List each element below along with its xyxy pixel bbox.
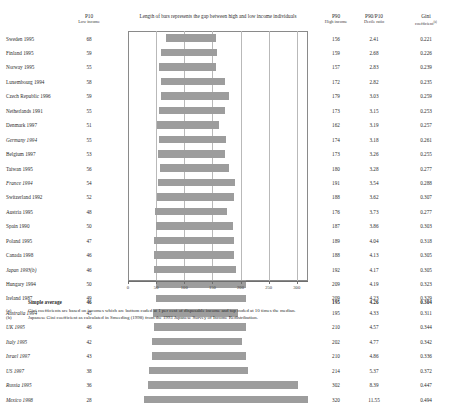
cell-p90: 192 <box>316 267 356 273</box>
cell-gini: 0.336 <box>398 353 454 359</box>
table-row: US 1997382145.370.372 <box>0 365 459 379</box>
table-row: Japan 1993(b)461924.170.305 <box>0 264 459 278</box>
cell-p10: 58 <box>72 79 106 85</box>
cell-p10: 46 <box>72 252 106 258</box>
cell-p10: 43 <box>72 353 106 359</box>
cell-p90: 202 <box>316 339 356 345</box>
cell-p90: 188 <box>316 194 356 200</box>
cell-decile-ratio: 4.57 <box>352 324 396 330</box>
simple-average-label: Simple average <box>28 299 62 305</box>
cell-decile-ratio: 4.86 <box>352 353 396 359</box>
table-row: Spain 1990501873.860.303 <box>0 221 459 235</box>
cell-p90: 320 <box>316 397 356 403</box>
footnote-a-text: Gini coefficients are based on incomes w… <box>28 307 453 314</box>
cell-p10: 59 <box>72 93 106 99</box>
header-gini: Gini coefficient(a) <box>398 13 454 28</box>
cell-decile-ratio: 5.37 <box>352 368 396 374</box>
cell-gini: 0.239 <box>398 64 454 70</box>
country-label: Hungary 1994 <box>6 281 36 287</box>
cell-decile-ratio: 2.82 <box>352 79 396 85</box>
table-row: Poland 1995471894.040.318 <box>0 235 459 249</box>
cell-p90: 173 <box>316 108 356 114</box>
cell-gini: 0.288 <box>398 180 454 186</box>
cell-p10: 55 <box>72 108 106 114</box>
cell-p90: 162 <box>316 122 356 128</box>
cell-p10: 51 <box>72 122 106 128</box>
table-row: Germany 1994551743.180.261 <box>0 134 459 148</box>
table-row: Taiwan 1995561803.280.277 <box>0 163 459 177</box>
header-p10-sublabel: Low income <box>72 19 106 25</box>
cell-p90: 209 <box>316 281 356 287</box>
cell-p10: 52 <box>72 194 106 200</box>
table-row: Finland 1995591592.680.226 <box>0 47 459 61</box>
cell-p90: 210 <box>316 353 356 359</box>
cell-decile-ratio: 3.86 <box>352 223 396 229</box>
cell-gini: 0.253 <box>398 108 454 114</box>
table-row: Luxembourg 1994581722.820.235 <box>0 76 459 90</box>
table-row: Austria 1995481763.730.277 <box>0 206 459 220</box>
table-row: Denmark 1997511623.190.257 <box>0 120 459 134</box>
table-row: Hungary 1994502094.190.323 <box>0 278 459 292</box>
cell-p10: 55 <box>72 64 106 70</box>
country-label: Taiwan 1995 <box>6 166 33 172</box>
cell-p90: 191 <box>316 180 356 186</box>
cell-decile-ratio: 3.28 <box>352 166 396 172</box>
header-p90-sublabel: High income <box>316 19 356 25</box>
country-label: Norway 1995 <box>6 64 34 70</box>
column-headers: P10 Low income Length of bars represents… <box>0 13 459 33</box>
footnote-b-text: Japanese Gini coefficient as calculated … <box>28 314 453 321</box>
country-label: Russia 1995 <box>6 382 32 388</box>
cell-p10: 46 <box>72 324 106 330</box>
cell-p10: 68 <box>72 36 106 42</box>
cell-gini: 0.305 <box>398 252 454 258</box>
cell-p90: 302 <box>316 382 356 388</box>
cell-decile-ratio: 4.19 <box>352 281 396 287</box>
cell-p90: 179 <box>316 93 356 99</box>
cell-p10: 28 <box>72 397 106 403</box>
cell-gini: 0.323 <box>398 281 454 287</box>
table-row: Israel 1997432104.860.336 <box>0 351 459 365</box>
cell-p10: 42 <box>72 339 106 345</box>
simple-average-gini: 0.304 <box>398 299 454 305</box>
cell-decile-ratio: 3.03 <box>352 93 396 99</box>
table-row: France 1994541913.540.288 <box>0 177 459 191</box>
cell-decile-ratio: 3.54 <box>352 180 396 186</box>
table-row: Belgium 1997531733.260.255 <box>0 149 459 163</box>
header-ratio-sublabel: Decile ratio <box>352 19 396 25</box>
country-label: Finland 1995 <box>6 50 34 56</box>
cell-gini: 0.318 <box>398 238 454 244</box>
country-label: Israel 1997 <box>6 353 30 359</box>
header-p10: P10 Low income <box>72 13 106 26</box>
country-label: Canada 1998 <box>6 252 33 258</box>
cell-p10: 36 <box>72 382 106 388</box>
footnote-a-marker: (a) <box>6 307 11 314</box>
table-row: Mexico 19982832011.550.494 <box>0 394 459 407</box>
cell-gini: 0.372 <box>398 368 454 374</box>
country-label: Mexico 1998 <box>6 397 33 403</box>
country-label: Switzerland 1992 <box>6 194 42 200</box>
cell-gini: 0.259 <box>398 93 454 99</box>
cell-gini: 0.255 <box>398 151 454 157</box>
cell-p10: 53 <box>72 151 106 157</box>
table-body: Sweden 1995681562.410.221Finland 1995591… <box>0 33 459 407</box>
cell-p10: 47 <box>72 238 106 244</box>
table-row: Czech Republic 1996591793.030.259 <box>0 91 459 105</box>
country-label: US 1997 <box>6 368 24 374</box>
table-row: Norway 1995551572.830.239 <box>0 62 459 76</box>
cell-gini: 0.277 <box>398 209 454 215</box>
cell-gini: 0.226 <box>398 50 454 56</box>
header-p90: P90 High income <box>316 13 356 26</box>
cell-gini: 0.342 <box>398 339 454 345</box>
country-label: Spain 1990 <box>6 223 30 229</box>
cell-decile-ratio: 3.26 <box>352 151 396 157</box>
cell-decile-ratio: 2.68 <box>352 50 396 56</box>
cell-p90: 174 <box>316 137 356 143</box>
country-label: Czech Republic 1996 <box>6 93 51 99</box>
cell-p90: 173 <box>316 151 356 157</box>
header-decile-ratio: P90/P10 Decile ratio <box>352 13 396 26</box>
table-row: Netherlands 1991551733.150.253 <box>0 105 459 119</box>
cell-p10: 46 <box>72 267 106 273</box>
cell-gini: 0.305 <box>398 267 454 273</box>
cell-p90: 172 <box>316 79 356 85</box>
